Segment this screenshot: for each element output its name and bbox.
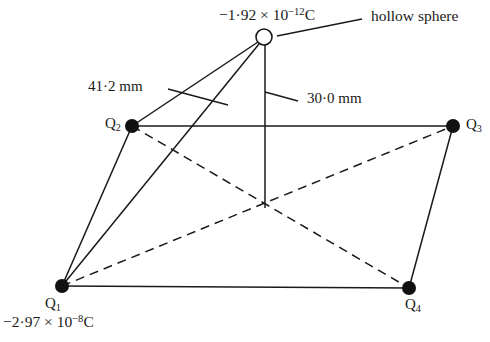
node-label-q4-subscript: 4 (416, 303, 421, 314)
charge-node-q1[interactable] (55, 279, 69, 293)
edge-q3-q4 (409, 126, 453, 288)
q1-charge-exponent: −8 (72, 313, 83, 324)
leader-dimension-right (265, 92, 298, 101)
q1-charge-label: −2·97 × 10−8C (3, 314, 94, 330)
dimension-label-left: 41·2 mm (88, 79, 143, 94)
edge-q2-sphere (132, 42, 258, 126)
sphere-charge-label: −1·92 × 10−12C (219, 7, 315, 23)
edge-q1-q4 (62, 286, 409, 288)
leader-dimension-left (168, 89, 228, 105)
dimension-label-right: 30·0 mm (307, 91, 362, 106)
node-label-q2: Q2 (105, 116, 121, 133)
edge-q2-q4-dashed (132, 126, 409, 288)
hollow-sphere-text-label: hollow sphere (371, 8, 458, 24)
node-label-q2-subscript: 2 (116, 122, 121, 133)
edge-q1-q3-dashed (62, 126, 453, 286)
charge-node-q4[interactable] (402, 281, 416, 295)
q1-charge-mantissa: −2·97 × 10 (3, 313, 72, 330)
node-label-q1-subscript: 1 (56, 302, 61, 313)
q1-charge-unit: C (83, 313, 93, 330)
hollow-sphere-node[interactable] (256, 29, 272, 45)
node-label-q3-base: Q (466, 116, 477, 132)
node-label-q4-base: Q (405, 296, 416, 312)
node-label-q3: Q3 (466, 117, 482, 134)
node-label-q1-base: Q (45, 295, 56, 311)
node-label-q2-base: Q (105, 115, 116, 131)
node-label-q3-subscript: 3 (477, 123, 482, 134)
node-label-q4: Q4 (405, 297, 421, 314)
sphere-charge-unit: C (305, 6, 315, 23)
charge-node-q3[interactable] (446, 119, 460, 133)
node-label-q1: Q1 (45, 296, 61, 313)
sphere-charge-mantissa: −1·92 × 10 (219, 6, 288, 23)
charge-node-q2[interactable] (125, 119, 139, 133)
diagram-canvas (0, 0, 490, 342)
physics-diagram-figure: −1·92 × 10−12C hollow sphere 41·2 mm 30·… (0, 0, 490, 342)
sphere-charge-exponent: −12 (288, 6, 304, 17)
